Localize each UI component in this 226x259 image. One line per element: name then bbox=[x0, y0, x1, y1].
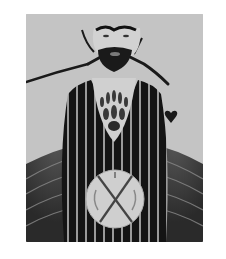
artwork-image: Monochrome painting of a bearded figure … bbox=[26, 14, 203, 242]
x-medallion bbox=[86, 170, 144, 228]
painting-svg bbox=[26, 14, 203, 242]
left-eye bbox=[103, 35, 109, 38]
right-eye bbox=[123, 35, 129, 38]
